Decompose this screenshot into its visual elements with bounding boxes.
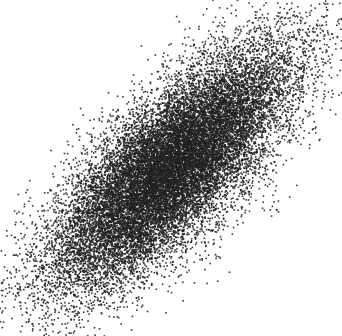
scatter-plot: Dense bivariate-normal point cloud with … — [0, 0, 342, 336]
scatter-point-cloud — [0, 0, 342, 336]
